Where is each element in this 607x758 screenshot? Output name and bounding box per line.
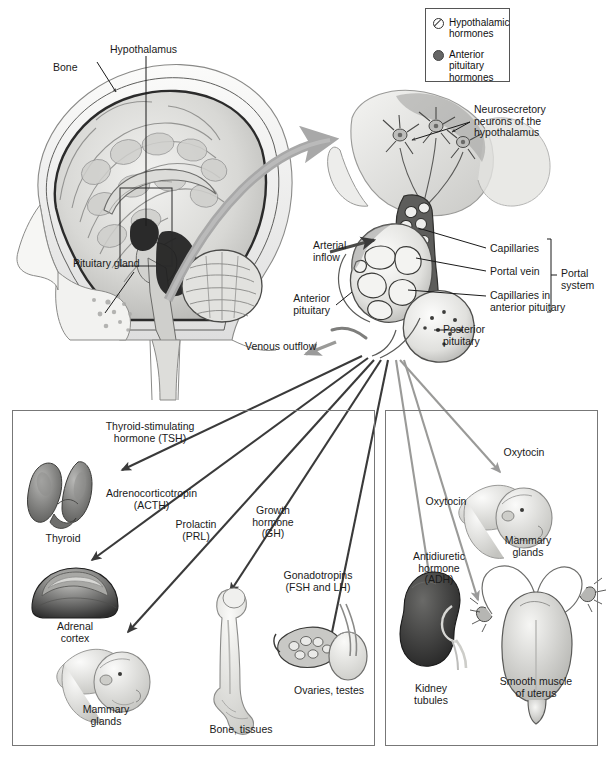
legend-label-anterior: Anterior pituitary hormones — [449, 49, 493, 83]
label-venous-outflow: Venous outflow — [245, 341, 316, 353]
label-portal-system: Portal system — [561, 268, 594, 291]
label-arterial-inflow: Arterial inflow — [313, 240, 346, 263]
label-posterior-pituitary: Posterior pituitary — [443, 324, 485, 347]
label-tsh: Thyroid-stimulating hormone (TSH) — [80, 421, 220, 444]
legend-label-hypothalamic: Hypothalamic hormones — [449, 17, 510, 40]
label-bone: Bone — [53, 62, 78, 74]
label-prl: Prolactin (PRL) — [167, 519, 225, 542]
label-mammary-glands-left: Mammary glands — [66, 704, 146, 727]
label-bone-tissues: Bone, tissues — [196, 724, 286, 736]
legend-item-hypothalamic: Hypothalamic hormones — [433, 17, 507, 40]
label-mammary-glands-right: Mammary glands — [490, 535, 566, 558]
label-adh: Antidiuretic hormone (ADH) — [400, 551, 478, 586]
label-thyroid: Thyroid — [28, 533, 98, 545]
label-kidney-tubules: Kidney tubules — [398, 683, 464, 706]
hypothalamic-hormone-symbol-icon — [433, 18, 444, 29]
label-gonadotropins: Gonadotropins (FSH and LH) — [268, 570, 368, 593]
label-capillaries: Capillaries — [490, 243, 539, 255]
label-gh: Growth hormone (GH) — [244, 505, 302, 540]
label-oxytocin-lower: Oxytocin — [411, 496, 481, 508]
label-neurosecretory-neurons: Neurosecretory neurons of the hypothalam… — [474, 104, 546, 139]
legend: Hypothalamic hormones Anterior pituitary… — [425, 8, 510, 82]
label-smooth-muscle-uterus: Smooth muscle of uterus — [484, 676, 588, 699]
label-anterior-pituitary: Anterior pituitary — [262, 293, 330, 316]
legend-item-anterior: Anterior pituitary hormones — [433, 49, 507, 83]
label-hypothalamus: Hypothalamus — [110, 44, 177, 56]
label-portal-vein: Portal vein — [490, 266, 540, 278]
label-capillaries-anterior-pituitary: Capillaries in anterior pituitary — [490, 290, 565, 313]
label-pituitary-gland: Pituitary gland — [73, 258, 140, 270]
anterior-pituitary-hormone-symbol-icon — [433, 50, 444, 61]
label-oxytocin-upper: Oxytocin — [489, 447, 559, 459]
label-acth: Adrenocorticotropin (ACTH) — [84, 488, 219, 511]
label-ovaries-testes: Ovaries, testes — [279, 685, 379, 697]
label-adrenal-cortex: Adrenal cortex — [40, 621, 110, 644]
figure-canvas: Hypothalamic hormones Anterior pituitary… — [0, 0, 607, 758]
